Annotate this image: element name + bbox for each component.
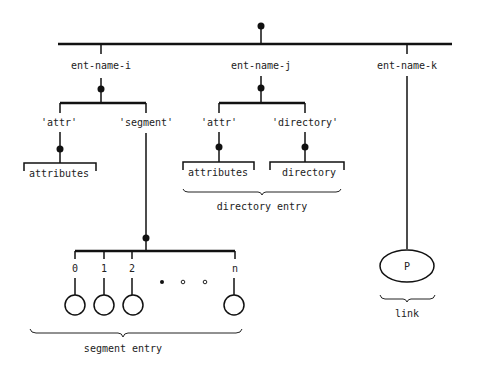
ent-name-k-label: ent-name-k — [377, 60, 437, 71]
ent-i-attr-node — [57, 146, 64, 153]
ellipsis-dot-1 — [160, 280, 164, 284]
ent-i-node — [98, 86, 105, 93]
ent-j-directory-leaf-label: directory — [282, 167, 336, 178]
link-label: link — [395, 308, 419, 319]
ellipsis-dot-2 — [181, 280, 185, 284]
directory-entry-label: directory entry — [217, 201, 307, 212]
segment-node — [143, 235, 150, 242]
ent-name-j-label: ent-name-j — [231, 60, 291, 71]
ent-i-attr-label: 'attr' — [41, 117, 77, 128]
segment-circle-1 — [94, 295, 114, 315]
ent-j-attributes-label: attributes — [188, 167, 248, 178]
segment-entry-label: segment entry — [84, 343, 162, 354]
ent-j-directory-node — [302, 144, 309, 151]
ent-j-node — [258, 85, 265, 92]
segment-index-n: n — [232, 263, 238, 274]
directory-structure-diagram: ent-name-i 'attr' 'segment' attributes 0… — [0, 0, 477, 371]
ent-i-attributes-label: attributes — [29, 168, 89, 179]
root-node — [258, 23, 265, 30]
segment-index-1: 1 — [101, 263, 107, 274]
segment-circle-0 — [65, 295, 85, 315]
link-node-label: P — [404, 261, 410, 272]
ent-j-attr-label: 'attr' — [201, 117, 237, 128]
segment-entry-brace — [30, 329, 242, 337]
ent-j-directory-label: 'directory' — [272, 117, 338, 128]
segment-circle-2 — [123, 295, 143, 315]
segment-circle-n — [224, 295, 244, 315]
segment-index-2: 2 — [129, 263, 135, 274]
ent-name-i-label: ent-name-i — [71, 60, 131, 71]
ent-j-attr-node — [216, 144, 223, 151]
link-brace — [380, 295, 435, 302]
ent-i-segment-label: 'segment' — [119, 117, 173, 128]
ellipsis-dot-3 — [203, 280, 207, 284]
directory-entry-brace — [183, 189, 341, 195]
segment-index-0: 0 — [72, 263, 78, 274]
